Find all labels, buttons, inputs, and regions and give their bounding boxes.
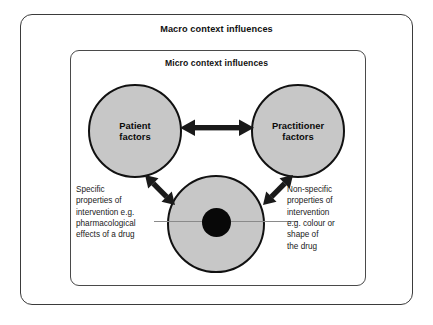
double-arrow-patient-practitioner [180, 112, 254, 144]
diagram-canvas: Macro context influences Micro context i… [0, 0, 433, 325]
macro-context-title: Macro context influences [0, 24, 433, 34]
caption-specific-properties: Specific properties of intervention e.g.… [76, 184, 156, 241]
node-patient-factors: Patient factors [88, 84, 182, 178]
intervention-core-dot [202, 208, 231, 237]
node-practitioner-factors-label: Practitioner factors [272, 120, 324, 143]
caption-non-specific-properties: Non-specific properties of intervention … [287, 184, 363, 252]
micro-context-title: Micro context influences [0, 58, 433, 68]
node-practitioner-factors: Practitioner factors [251, 84, 345, 178]
node-patient-factors-label: Patient factors [119, 120, 150, 143]
